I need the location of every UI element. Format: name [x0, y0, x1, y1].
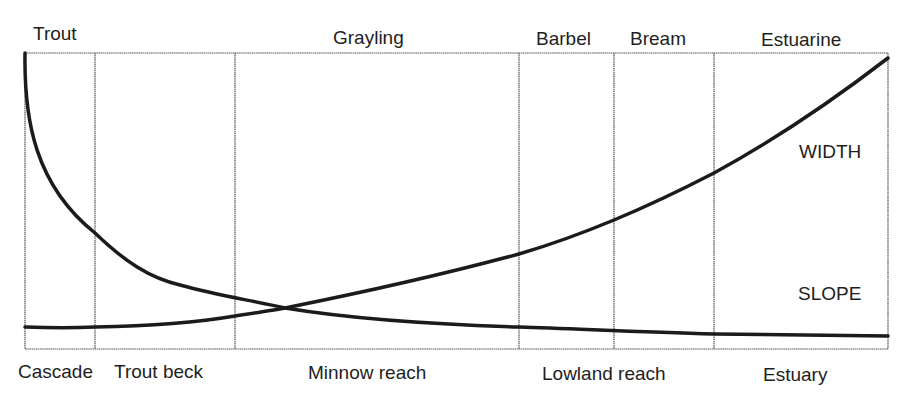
river-zonation-diagram — [0, 0, 905, 400]
diagram-frame — [25, 53, 888, 349]
fish-zone-bream: Bream — [630, 29, 686, 48]
river-zone-minnow-reach: Minnow reach — [308, 363, 426, 382]
fish-zone-grayling: Grayling — [333, 28, 404, 47]
fish-zone-barbel: Barbel — [536, 29, 591, 48]
river-zone-estuary: Estuary — [763, 365, 827, 384]
width-label: WIDTH — [799, 142, 861, 161]
river-zone-trout-beck: Trout beck — [114, 362, 203, 381]
zone-dividers — [95, 53, 714, 349]
slope-label: SLOPE — [798, 284, 861, 303]
slope-curve — [25, 53, 888, 336]
fish-zone-trout: Trout — [33, 24, 77, 43]
fish-zone-estuarine: Estuarine — [761, 30, 841, 49]
width-curve — [25, 58, 888, 328]
river-zone-lowland-reach: Lowland reach — [542, 364, 666, 383]
river-zone-cascade: Cascade — [18, 362, 93, 381]
